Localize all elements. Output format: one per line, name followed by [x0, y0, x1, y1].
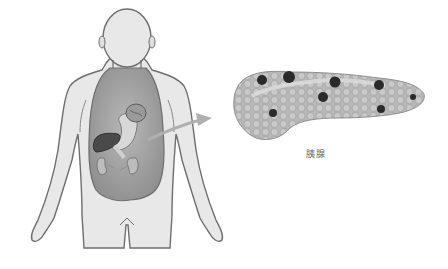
lesion-dot — [374, 80, 384, 90]
diagram-canvas — [0, 0, 448, 269]
human-body-figure — [31, 9, 222, 248]
lesion-dot — [410, 94, 416, 100]
lesion-dot — [283, 71, 295, 83]
head — [103, 9, 151, 67]
lesion-dot — [377, 105, 385, 113]
kidney-left — [97, 158, 107, 175]
ear-right — [149, 36, 155, 48]
ear-left — [99, 36, 105, 48]
pancreas-illustration — [234, 71, 425, 140]
lesion-dot — [318, 92, 328, 102]
lesion-dot — [269, 109, 277, 117]
pancreas-label: 胰腺 — [306, 147, 326, 160]
kidney-right — [127, 158, 138, 174]
lesion-dot — [257, 75, 267, 85]
lesion-dot — [330, 77, 341, 88]
